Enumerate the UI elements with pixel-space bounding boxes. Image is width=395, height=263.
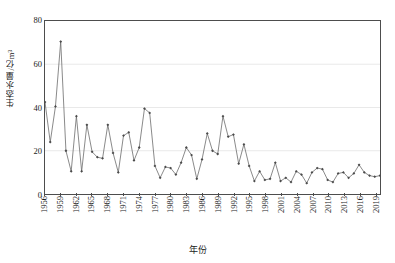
x-tick-1977: 1977 [151, 196, 160, 213]
x-tick-1998: 1998 [261, 196, 270, 213]
x-tick-1995: 1995 [245, 196, 254, 213]
x-tick-2016: 2016 [356, 196, 365, 213]
x-tick-1989: 1989 [214, 196, 223, 213]
x-axis-tick-labels: 1956195919621965196819711974197719801983… [0, 196, 395, 244]
x-tick-1974: 1974 [135, 196, 144, 213]
y-tick-20: 20 [20, 147, 42, 155]
x-tick-1959: 1959 [56, 196, 65, 213]
x-tick-1956: 1956 [40, 196, 49, 213]
x-tick-1971: 1971 [119, 196, 128, 213]
x-tick-1962: 1962 [72, 196, 81, 213]
x-tick-1986: 1986 [198, 196, 207, 213]
x-tick-2013: 2013 [340, 196, 349, 213]
x-tick-2004: 2004 [293, 196, 302, 213]
x-tick-1980: 1980 [166, 196, 175, 213]
x-axis-title: 年份 [0, 243, 395, 256]
y-tick-60: 60 [20, 60, 42, 68]
ecological-water-volume-line-chart: 生态水量/亿m³ 020406080 195619591962196519681… [0, 0, 395, 263]
gridlines [45, 64, 380, 151]
y-tick-40: 40 [20, 104, 42, 112]
x-tick-1968: 1968 [103, 196, 112, 213]
x-tick-1965: 1965 [87, 196, 96, 213]
series-line [45, 42, 380, 184]
series-svg [45, 21, 380, 194]
x-tick-2010: 2010 [324, 196, 333, 213]
x-tick-1992: 1992 [230, 196, 239, 213]
x-tick-1983: 1983 [182, 196, 191, 213]
x-tick-2007: 2007 [309, 196, 318, 213]
series-markers [45, 40, 380, 184]
x-tick-2019: 2019 [372, 196, 381, 213]
y-tick-80: 80 [20, 16, 42, 24]
plot-area [44, 20, 381, 195]
x-tick-2001: 2001 [277, 196, 286, 213]
